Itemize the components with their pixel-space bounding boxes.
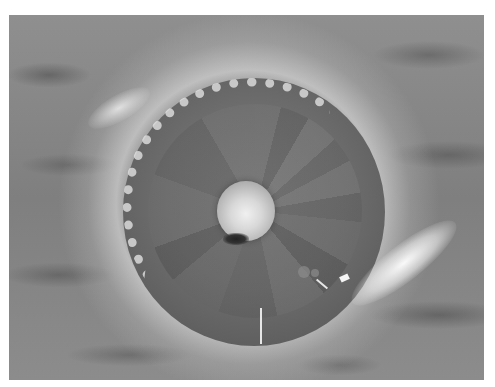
dark-debris [223, 233, 249, 245]
central-sphere [217, 181, 275, 241]
bead [311, 269, 319, 277]
photograph [9, 15, 484, 380]
vertical-filament [260, 308, 262, 344]
bead [298, 266, 310, 278]
